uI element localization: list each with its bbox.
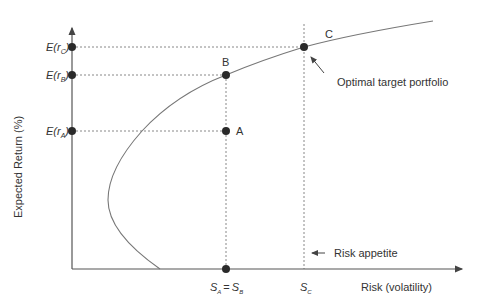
- dot-rB: [68, 71, 76, 79]
- point-C-label: C: [325, 28, 333, 40]
- ytick-rC: E(rC): [46, 41, 70, 55]
- optimal-portfolio-label: Optimal target portfolio: [337, 76, 448, 88]
- point-A-dot: [222, 127, 230, 135]
- efficient-frontier-diagram: B A C E(rC) E(rB) E(rA) SA=SB SC Risk (v…: [0, 0, 479, 307]
- xtick-SC: SC: [300, 281, 312, 295]
- risk-appetite-label: Risk appetite: [334, 247, 398, 259]
- y-axis-title: Expected Return (%): [12, 116, 24, 218]
- point-B-label: B: [222, 56, 229, 68]
- point-A-label: A: [236, 125, 244, 137]
- efficient-frontier-curve: [108, 21, 433, 269]
- ytick-rA: E(rA): [46, 125, 69, 139]
- xtick-SAB: SA=SB: [210, 281, 243, 295]
- optimal-arrow: [311, 57, 324, 73]
- ytick-rB: E(rB): [46, 69, 69, 83]
- guide-lines: [72, 24, 304, 269]
- point-C-dot: [300, 43, 308, 51]
- point-B-dot: [222, 71, 230, 79]
- dot-SAB: [222, 265, 230, 273]
- x-axis-title: Risk (volatility): [361, 281, 432, 293]
- dot-rA: [68, 127, 76, 135]
